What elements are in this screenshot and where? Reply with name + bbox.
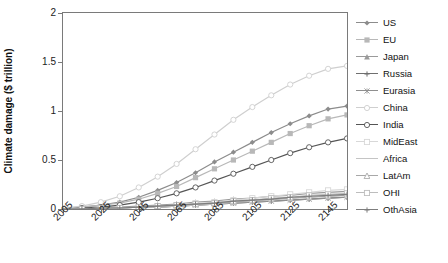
data-point-square xyxy=(269,140,274,145)
legend-swatch-icon xyxy=(356,188,378,198)
data-point-square-open xyxy=(364,139,369,144)
data-point-circle-open xyxy=(364,105,369,110)
data-point-diamond xyxy=(307,113,312,118)
data-point-square xyxy=(364,37,369,42)
legend-swatch-icon xyxy=(356,52,378,62)
data-point-square xyxy=(325,116,330,121)
data-point-square xyxy=(344,112,347,117)
y-tick-label: 0.5 xyxy=(28,154,56,165)
data-point-circle-open xyxy=(174,191,179,196)
legend-label: MidEast xyxy=(383,136,417,147)
legend-item-eurasia[interactable]: Eurasia xyxy=(356,82,446,99)
data-point-circle-open xyxy=(269,93,274,98)
data-point-square xyxy=(155,191,160,196)
y-tick-mark xyxy=(58,62,62,63)
data-point-diamond xyxy=(231,150,236,155)
data-point-star xyxy=(364,88,369,93)
climate-damage-chart: Climate damage ($ trillion) 00.511.52 20… xyxy=(0,0,448,263)
legend-swatch-icon xyxy=(356,120,378,130)
data-point-circle-open xyxy=(269,157,274,162)
legend-label: OHI xyxy=(383,187,400,198)
data-point-circle-open xyxy=(212,178,217,183)
legend-label: LatAm xyxy=(383,170,410,181)
legend-swatch-icon xyxy=(356,86,378,96)
y-axis-title: Climate damage ($ trillion) xyxy=(2,12,16,210)
data-point-diamond xyxy=(344,104,347,109)
legend-item-eu[interactable]: EU xyxy=(356,31,446,48)
legend-item-othasia[interactable]: OthAsia xyxy=(356,201,446,218)
data-point-diamond xyxy=(193,170,198,175)
legend-swatch-icon xyxy=(356,35,378,45)
data-point-diamond xyxy=(325,106,330,111)
data-point-cross xyxy=(364,71,369,76)
data-point-circle-open xyxy=(155,196,160,201)
legend-item-china[interactable]: China xyxy=(356,99,446,116)
legend-swatch-icon xyxy=(356,205,378,215)
data-point-circle-open xyxy=(136,185,141,190)
legend-label: Eurasia xyxy=(383,85,415,96)
data-point-cross xyxy=(364,207,369,212)
data-point-square xyxy=(193,175,198,180)
legend-item-mideast[interactable]: MidEast xyxy=(356,133,446,150)
legend-label: Japan xyxy=(383,51,409,62)
data-point-circle-open xyxy=(325,66,330,71)
data-point-circle-open xyxy=(364,122,369,127)
data-point-circle-open xyxy=(344,136,347,141)
data-point-circle-open xyxy=(212,132,217,137)
legend-swatch-icon xyxy=(356,137,378,147)
y-tick-label: 2 xyxy=(28,7,56,18)
data-point-square xyxy=(212,166,217,171)
legend-label: Africa xyxy=(383,153,407,164)
y-tick-label: 1.5 xyxy=(28,56,56,67)
legend-label: China xyxy=(383,102,408,113)
data-point-circle-open xyxy=(307,73,312,78)
data-point-circle-open xyxy=(174,161,179,166)
data-point-circle-open xyxy=(250,104,255,109)
y-tick-mark xyxy=(58,13,62,14)
data-point-square-open xyxy=(364,190,369,195)
series-eu xyxy=(63,112,347,209)
legend-item-africa[interactable]: Africa xyxy=(356,150,446,167)
data-point-diamond xyxy=(250,140,255,145)
legend-item-india[interactable]: India xyxy=(356,116,446,133)
legend-swatch-icon xyxy=(356,69,378,79)
data-point-circle-open xyxy=(250,164,255,169)
series-china xyxy=(63,63,347,209)
data-point-circle-open xyxy=(193,147,198,152)
data-point-circle-open xyxy=(325,140,330,145)
data-point-circle-open xyxy=(307,145,312,150)
data-point-circle-open xyxy=(231,117,236,122)
data-point-square xyxy=(250,149,255,154)
series-canvas xyxy=(63,13,347,209)
data-point-circle-open xyxy=(117,194,122,199)
legend-label: Russia xyxy=(383,68,412,79)
legend-swatch-icon xyxy=(356,103,378,113)
legend-swatch-icon xyxy=(356,171,378,181)
data-point-square xyxy=(288,131,293,136)
legend-item-ohi[interactable]: OHI xyxy=(356,184,446,201)
data-point-diamond xyxy=(212,159,217,164)
legend-swatch-icon xyxy=(356,18,378,28)
data-point-triangle-open xyxy=(364,173,370,179)
data-point-circle-open xyxy=(288,82,293,87)
data-point-square xyxy=(231,157,236,162)
data-point-circle-open xyxy=(288,151,293,156)
y-tick-mark xyxy=(58,160,62,161)
legend-item-russia[interactable]: Russia xyxy=(356,65,446,82)
legend-item-japan[interactable]: Japan xyxy=(356,48,446,65)
legend-label: US xyxy=(383,17,396,28)
legend-swatch-icon xyxy=(356,154,378,164)
data-point-triangle xyxy=(364,54,370,60)
data-point-circle-open xyxy=(344,63,347,68)
legend-item-latam[interactable]: LatAm xyxy=(356,167,446,184)
data-point-circle-open xyxy=(231,171,236,176)
legend-label: OthAsia xyxy=(383,204,417,215)
legend-item-us[interactable]: US xyxy=(356,14,446,31)
plot-area xyxy=(62,12,348,210)
legend: USEUJapanRussiaEurasiaChinaIndiaMidEastA… xyxy=(356,14,446,218)
data-point-diamond xyxy=(364,20,369,25)
data-point-circle-open xyxy=(193,185,198,190)
legend-label: EU xyxy=(383,34,396,45)
data-point-diamond xyxy=(269,130,274,135)
legend-label: India xyxy=(383,119,404,130)
